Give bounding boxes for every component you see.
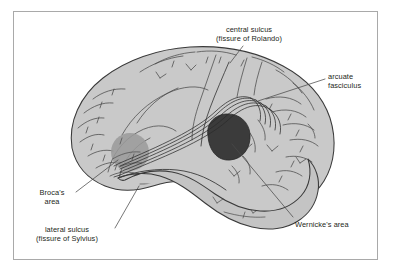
label-lateral-sulcus-line-2: (fissure of Sylvius) xyxy=(20,234,114,243)
label-wernickes-area-line-1: Wernicke's area xyxy=(295,220,349,229)
label-arcuate-fasciculus-line-2: fasciculus xyxy=(328,81,361,90)
label-lateral-sulcus-line-1: lateral sulcus xyxy=(20,225,114,234)
label-brocas-area-line-1: Broca's xyxy=(29,188,75,197)
label-central-sulcus-line-2: (fissure of Rolando) xyxy=(216,34,282,43)
label-arcuate-fasciculus: arcuate fasciculus xyxy=(328,72,361,90)
figure-root: central sulcus (fissure of Rolando) arcu… xyxy=(0,0,397,273)
label-central-sulcus-line-1: central sulcus xyxy=(216,25,282,34)
label-brocas-area: Broca's area xyxy=(29,188,75,206)
leader-line-lateral-sulcus xyxy=(115,186,139,228)
label-central-sulcus: central sulcus (fissure of Rolando) xyxy=(216,25,282,43)
label-wernickes-area: Wernicke's area xyxy=(295,220,349,229)
label-arcuate-fasciculus-line-1: arcuate xyxy=(328,72,361,81)
label-lateral-sulcus: lateral sulcus (fissure of Sylvius) xyxy=(20,225,114,243)
label-brocas-area-line-2: area xyxy=(29,197,75,206)
